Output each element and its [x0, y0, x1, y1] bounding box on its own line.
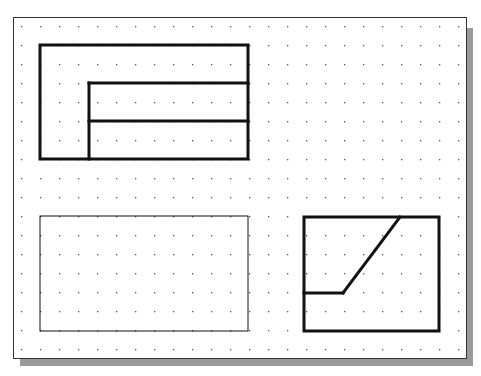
grid-dot: [325, 26, 326, 27]
grid-dot: [192, 235, 193, 236]
grid-dot: [363, 273, 364, 274]
grid-dot: [382, 102, 383, 103]
grid-dot: [401, 26, 402, 27]
grid-dot: [173, 349, 174, 350]
grid-dot: [116, 102, 117, 103]
grid-dot: [401, 83, 402, 84]
grid-dot: [154, 292, 155, 293]
grid-dot: [420, 102, 421, 103]
grid-dot: [287, 197, 288, 198]
grid-dot: [420, 26, 421, 27]
grid-dot: [401, 102, 402, 103]
grid-dot: [420, 45, 421, 46]
grid-dot: [116, 311, 117, 312]
grid-dot: [458, 121, 459, 122]
grid-dot: [439, 102, 440, 103]
grid-dot: [211, 273, 212, 274]
grid-dot: [344, 64, 345, 65]
grid-dot: [192, 102, 193, 103]
grid-dot: [78, 235, 79, 236]
grid-dot: [363, 45, 364, 46]
grid-dot: [287, 159, 288, 160]
grid-dot: [401, 159, 402, 160]
grid-dot: [287, 140, 288, 141]
grid-dot: [268, 26, 269, 27]
grid-dot: [420, 159, 421, 160]
grid-dot: [363, 349, 364, 350]
grid-dot: [344, 26, 345, 27]
grid-dot: [249, 197, 250, 198]
grid-dot: [230, 311, 231, 312]
grid-dot: [382, 178, 383, 179]
grid-dot: [230, 197, 231, 198]
grid-dot: [458, 235, 459, 236]
grid-dot: [325, 254, 326, 255]
grid-dot: [458, 273, 459, 274]
grid-dot: [420, 178, 421, 179]
grid-dot: [97, 349, 98, 350]
grid-dot: [325, 102, 326, 103]
grid-dot: [173, 178, 174, 179]
grid-dot: [40, 197, 41, 198]
grid-dot: [59, 178, 60, 179]
grid-dot: [401, 140, 402, 141]
grid-dot: [401, 45, 402, 46]
grid-dot: [173, 292, 174, 293]
grid-dot: [21, 254, 22, 255]
views-layer: [40, 45, 439, 331]
grid-dot: [420, 292, 421, 293]
grid-dot: [382, 140, 383, 141]
grid-dot: [420, 140, 421, 141]
grid-dot: [97, 102, 98, 103]
grid-dot: [382, 83, 383, 84]
grid-dot: [458, 311, 459, 312]
grid-dot: [401, 311, 402, 312]
grid-dot: [97, 178, 98, 179]
grid-dot: [59, 254, 60, 255]
drawing-canvas: [0, 0, 481, 376]
grid-dot: [21, 102, 22, 103]
grid-dot: [268, 349, 269, 350]
grid-dot: [230, 64, 231, 65]
grid-dot: [382, 64, 383, 65]
grid-dot: [135, 235, 136, 236]
grid-dot: [154, 254, 155, 255]
grid-dot: [97, 197, 98, 198]
grid-dot: [59, 273, 60, 274]
grid-dot: [249, 330, 250, 331]
grid-dot: [344, 349, 345, 350]
grid-dot: [458, 64, 459, 65]
grid-dot: [211, 292, 212, 293]
grid-dot: [21, 311, 22, 312]
grid-dot: [458, 197, 459, 198]
grid-dot: [78, 64, 79, 65]
grid-dot: [78, 102, 79, 103]
grid-dot: [325, 64, 326, 65]
grid-dot: [439, 121, 440, 122]
grid-dot: [173, 26, 174, 27]
grid-dot: [135, 64, 136, 65]
grid-dot: [116, 178, 117, 179]
grid-dot: [344, 83, 345, 84]
dot-grid: [21, 26, 459, 350]
grid-dot: [287, 178, 288, 179]
grid-dot: [401, 254, 402, 255]
grid-dot: [135, 311, 136, 312]
grid-dot: [287, 254, 288, 255]
grid-dot: [173, 140, 174, 141]
grid-dot: [211, 102, 212, 103]
grid-dot: [325, 178, 326, 179]
grid-dot: [344, 140, 345, 141]
grid-dot: [268, 121, 269, 122]
grid-dot: [211, 235, 212, 236]
grid-dot: [268, 197, 269, 198]
view-outline: [40, 45, 248, 159]
grid-dot: [420, 349, 421, 350]
grid-dot: [268, 254, 269, 255]
grid-dot: [78, 311, 79, 312]
grid-dot: [268, 330, 269, 331]
grid-dot: [154, 64, 155, 65]
grid-dot: [154, 197, 155, 198]
grid-dot: [458, 178, 459, 179]
grid-dot: [192, 140, 193, 141]
